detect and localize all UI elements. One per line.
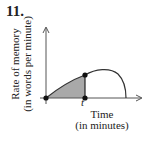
curve-point-at-t: [82, 72, 87, 77]
shaded-area: [46, 75, 85, 98]
x-axis-label: Time (in minutes): [67, 109, 137, 131]
x-axis-label-line2: (in minutes): [67, 120, 137, 131]
origin-point: [43, 95, 48, 100]
x-tick-t: t: [81, 96, 84, 108]
